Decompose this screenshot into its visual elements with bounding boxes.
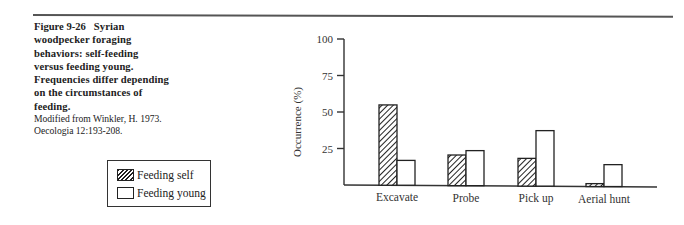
y-tick-label: 75 [322, 70, 334, 82]
x-category-label: Aerial hunt [578, 193, 631, 205]
x-category-label: Excavate [376, 191, 418, 203]
bars [379, 105, 622, 187]
x-category-label: Pick up [519, 192, 554, 205]
bar-feeding-self [448, 155, 466, 186]
y-tick-label: 50 [322, 106, 334, 118]
category-labels: ExcavateProbePick upAerial hunt [376, 191, 631, 205]
bar-feeding-young [536, 131, 554, 186]
bar-feeding-young [397, 160, 415, 185]
x-category-label: Probe [453, 192, 480, 204]
bar-feeding-self [379, 105, 397, 185]
bar-feeding-young [466, 151, 484, 186]
bar-feeding-self [518, 158, 536, 186]
y-tick-label: 100 [317, 33, 334, 45]
bar-feeding-self [586, 184, 604, 187]
y-tick-label: 25 [322, 143, 334, 155]
axes: 255075100 [317, 33, 658, 187]
bar-feeding-young [604, 165, 622, 187]
bar-chart: 255075100 ExcavateProbePick upAerial hun… [0, 0, 684, 225]
